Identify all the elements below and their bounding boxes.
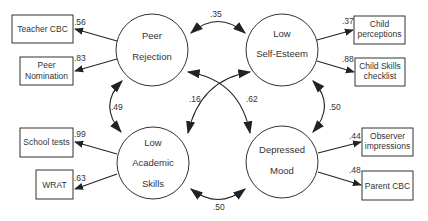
latent-label: Peer: [142, 30, 162, 41]
indicator-label: Nomination: [25, 71, 68, 81]
latent-depressed-mood: Depressed Mood: [246, 126, 318, 198]
latent-label: Low: [144, 137, 162, 148]
latent-label: Low: [273, 28, 291, 39]
corr-coef-self-mood: .50: [329, 102, 341, 112]
indicator-label: Peer: [38, 60, 56, 70]
latent-low-academic-skills: Low Academic Skills: [117, 127, 189, 199]
indicator-observer-impressions: Observer impressions: [362, 128, 413, 156]
indicator-label: perceptions: [358, 29, 402, 39]
corr-arc-acad-mood: [191, 189, 245, 200]
latent-label: Self-Esteem: [256, 48, 308, 59]
loading-arrow-observer: [318, 142, 361, 153]
indicator-child-perceptions: Child perceptions: [354, 16, 405, 44]
latent-label: Skills: [142, 178, 164, 189]
corr-coef-peer-mood: .62: [246, 94, 258, 104]
indicator-label: School tests: [23, 137, 69, 147]
corr-arc-self-mood: [313, 81, 325, 132]
latent-label: Academic: [132, 157, 174, 168]
loading-coef-parent-cbc: .48: [349, 165, 361, 175]
indicator-peer-nomination: Peer Nomination: [20, 57, 73, 85]
loading-arrow-school-tests: [75, 142, 117, 154]
indicator-label: Child: [370, 19, 390, 29]
loading-coef-child-perc: .37: [342, 16, 354, 26]
loading-coef-child-skills: .88: [342, 54, 354, 64]
corr-coef-peer-self: .35: [210, 9, 222, 19]
indicator-teacher-cbc: Teacher CBC: [12, 15, 73, 43]
latent-label: Depressed: [259, 144, 305, 155]
loading-arrow-teacher-cbc: [75, 29, 117, 41]
loading-coef-teacher-cbc: .56: [74, 17, 86, 27]
indicator-label: impressions: [365, 141, 410, 151]
indicator-school-tests: School tests: [20, 128, 73, 157]
loading-coef-observer: .44: [349, 131, 361, 141]
corr-coef-acad-mood: .50: [213, 202, 225, 212]
loading-coef-wrat: .63: [74, 173, 86, 183]
indicator-wrat: WRAT: [36, 170, 73, 199]
indicator-child-skills-checklist: Child Skills checklist: [355, 58, 405, 86]
latent-label: Mood: [270, 165, 294, 176]
indicator-label: Observer: [370, 131, 405, 141]
latent-low-self-esteem: Low Self-Esteem: [246, 14, 318, 86]
sem-diagram: Peer Rejection Low Self-Esteem Low Acade…: [0, 0, 428, 221]
loading-coef-school-tests: .99: [74, 129, 86, 139]
loading-arrow-child-perc: [317, 30, 353, 40]
indicator-label: Child Skills: [359, 61, 401, 71]
corr-coef-peer-acad: .49: [111, 102, 123, 112]
indicator-label: Teacher CBC: [17, 24, 68, 34]
indicator-label: Parent CBC: [365, 181, 410, 191]
corr-coef-self-acad: .16: [189, 94, 201, 104]
indicator-label: WRAT: [42, 180, 66, 190]
latent-label: Rejection: [132, 51, 172, 62]
latent-peer-rejection: Peer Rejection: [116, 14, 188, 86]
corr-arc-peer-self: [191, 22, 245, 34]
loading-coef-peer-nom: .83: [74, 53, 86, 63]
indicator-parent-cbc: Parent CBC: [362, 171, 413, 200]
indicator-label: checklist: [364, 71, 397, 81]
